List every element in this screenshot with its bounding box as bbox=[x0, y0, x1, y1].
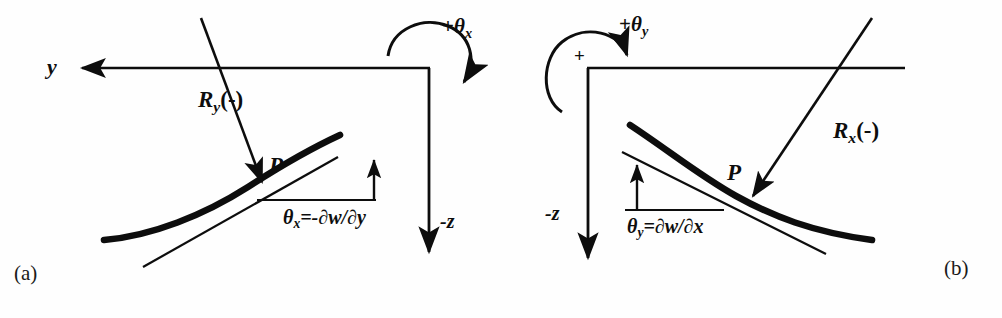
panel-a-reaction-tail: (-) bbox=[220, 87, 243, 112]
panel-a-rotation-sub: x bbox=[465, 25, 472, 41]
panel-b-rotation-label: +θy bbox=[619, 14, 648, 38]
panel-b-angle-label: θy=∂w/∂x bbox=[627, 216, 704, 240]
panel-a-z-axis-label: -z bbox=[440, 211, 454, 231]
panel-b-tag: (b) bbox=[944, 258, 969, 279]
panel-a-angle-expr: =-∂w/∂y bbox=[300, 206, 366, 228]
panel-a-angle-base: θ bbox=[283, 206, 293, 228]
panel-b-reaction-label: Rx(-) bbox=[833, 119, 879, 146]
panel-a-y-axis-label: y bbox=[47, 56, 57, 78]
panel-b-reaction-arrow bbox=[753, 18, 872, 196]
panel-b-z-axis-label: -z bbox=[545, 203, 559, 223]
panel-a-angle-label: θx=-∂w/∂y bbox=[283, 207, 366, 231]
figure-container: y Ry(-) P +θx θx=-∂w/∂y -z (a) +θy + Rx(… bbox=[0, 0, 1002, 318]
panel-b-reaction-base: R bbox=[833, 118, 848, 143]
panel-b-point-label: P bbox=[727, 161, 741, 184]
panel-a-rotation-base: θ bbox=[454, 14, 465, 38]
panel-b-arc-plus-marker: + bbox=[574, 46, 585, 65]
panel-b-angle-construction bbox=[625, 165, 724, 210]
panel-b-angle-base: θ bbox=[627, 215, 637, 237]
panel-a-point-label: P bbox=[269, 154, 283, 177]
panel-b-angle-expr: =∂w/∂x bbox=[643, 215, 703, 237]
panel-b-reaction-sub: x bbox=[848, 129, 856, 146]
panel-b-rotation-sign: + bbox=[619, 12, 631, 36]
panel-a-reaction-base: R bbox=[198, 87, 213, 112]
panel-a-tag: (a) bbox=[14, 263, 37, 284]
panel-a-reaction-label: Ry(-) bbox=[198, 88, 243, 115]
panel-a-rotation-label: +θx bbox=[442, 16, 472, 40]
panel-b-reaction-tail: (-) bbox=[856, 118, 879, 143]
panel-b-rotation-sub: y bbox=[642, 23, 648, 39]
diagram-vector-layer bbox=[0, 0, 1002, 318]
panel-a-rotation-sign: + bbox=[442, 14, 454, 38]
panel-b-rotation-base: θ bbox=[631, 12, 642, 36]
